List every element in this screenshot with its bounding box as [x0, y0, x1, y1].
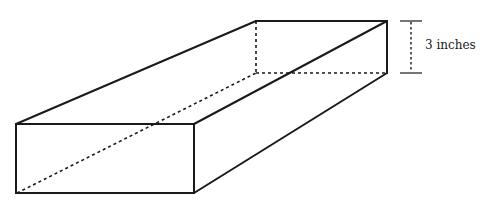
bottom-right-depth-edge	[194, 73, 387, 193]
height-dimension: 3 inches	[400, 21, 476, 73]
visible-edges	[16, 21, 387, 193]
hidden-bottom-left-depth-edge	[17, 73, 256, 193]
prism-diagram: 3 inches	[0, 0, 482, 206]
top-left-depth-edge	[16, 21, 256, 124]
front-face	[16, 124, 194, 193]
height-label: 3 inches	[425, 38, 476, 52]
